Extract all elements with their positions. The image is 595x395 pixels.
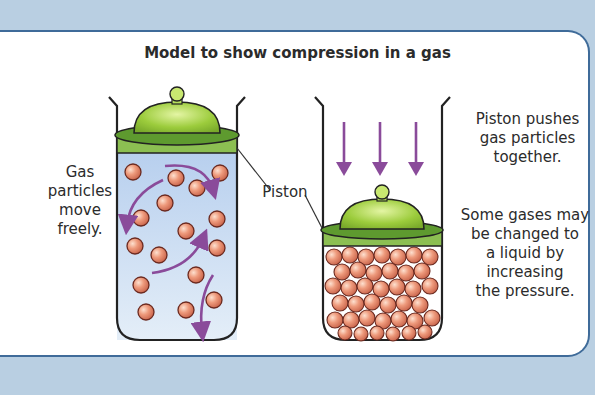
label-line: freely. [45,220,115,239]
liquefaction-label: Some gases may be changed to a liquid by… [455,206,595,301]
right-piston [321,185,443,246]
gas-particles-label: Gas particles move freely. [45,163,115,239]
label-line: be changed to [455,225,595,244]
label-line: the pressure. [455,282,595,301]
label-line: together. [460,148,595,167]
left-piston [115,87,239,153]
piston-pushes-label: Piston pushes gas particles together. [460,110,595,167]
pressure-arrows [336,122,424,176]
label-line: Gas [45,163,115,182]
label-line: Piston pushes [460,110,595,129]
label-line: move [45,201,115,220]
label-line: increasing [455,263,595,282]
piston-label: Piston [255,183,315,202]
gas-particles-compressed [325,247,440,341]
label-line: particles [45,182,115,201]
label-line: a liquid by [455,244,595,263]
label-line: Some gases may [455,206,595,225]
label-line: gas particles [460,129,595,148]
